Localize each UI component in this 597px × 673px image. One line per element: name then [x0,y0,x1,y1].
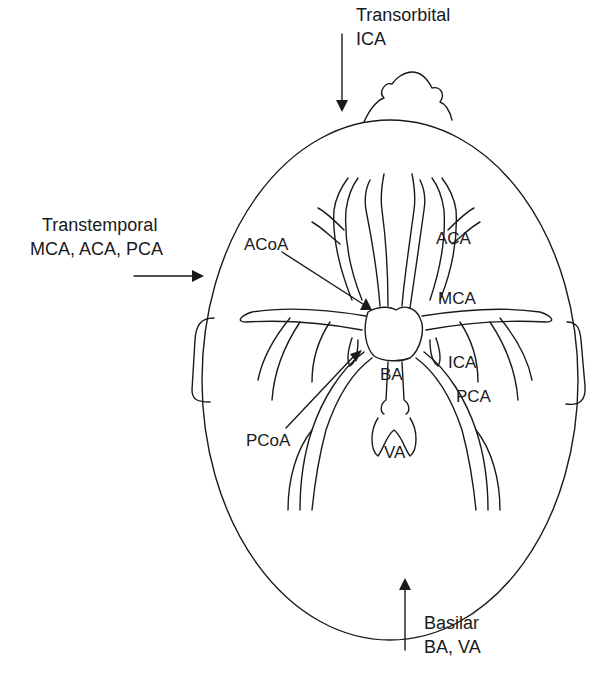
aca-right-inner [410,180,425,308]
label-va: VA [384,442,405,463]
aca-left [365,180,380,306]
label-mca: MCA [438,288,476,309]
transtemporal-vessels-label: MCA, ACA, PCA [30,238,163,261]
label-ica: ICA [448,352,476,373]
label-pca: PCA [456,386,491,407]
label-aca: ACA [436,228,471,249]
pcoa-pointer-line [286,356,354,428]
basilar-arrowhead [399,578,411,590]
transtemporal-window-label: Transtemporal [42,214,157,237]
mca-right [422,309,552,330]
label-acoa: ACoA [244,234,288,255]
label-ba: BA [380,364,403,385]
mca-left [240,309,366,330]
mca-left-branches [258,318,330,400]
left-frontal-twig [312,208,344,244]
basilar-vessels-label: BA, VA [424,636,481,659]
aca-left-inner [381,174,388,306]
label-pcoa: PCoA [246,430,290,451]
left-frontal-branch [334,178,362,300]
diagram-canvas [0,0,597,673]
basilar-window-label: Basilar [424,612,479,635]
circle-of-willis [365,307,422,361]
pcoa-arrowhead [350,350,362,362]
transorbital-window-label: Transorbital [356,4,450,27]
transorbital-arrowhead [336,100,348,112]
acoa-pointer-line [282,252,366,306]
nose [364,72,452,122]
transorbital-vessels-label: ICA [356,28,386,51]
transtemporal-arrowhead [192,270,204,282]
